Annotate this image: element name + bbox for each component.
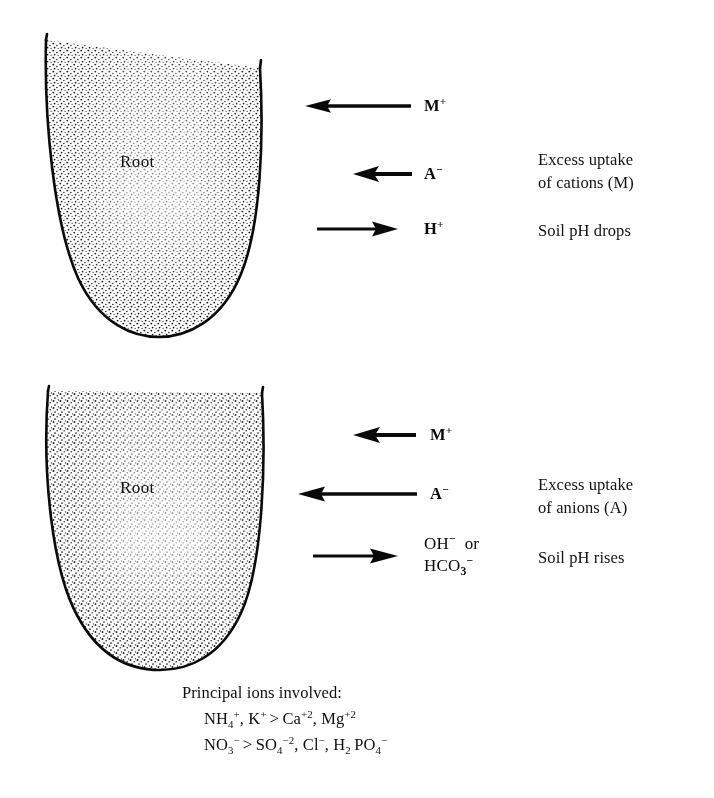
oh-conjunction: or [465,534,480,553]
arrow-a-minus-top [352,164,414,184]
ion-base: H [424,219,437,238]
chemical-formula: SO4−2 [256,735,295,754]
arrow-m-plus-top [303,96,413,116]
ion-label-oh-minus-bottom: OH− or HCO3− [424,533,479,578]
hco3-base: HCO [424,556,461,575]
caption-principal-ions: Principal ions involved: NH4+, K+>Ca+2, … [182,681,387,758]
chemical-formula: Ca+2 [282,709,312,728]
note-excess-uptake-anions: Excess uptake of anions (A) [538,473,633,520]
ion-label-m-plus-bottom: M+ [430,424,452,446]
ion-charge: + [437,218,444,230]
oh-charge: − [449,532,456,545]
ion-charge: − [436,163,443,175]
ion-label-h-plus-top: H+ [424,218,444,240]
ion-base: M [424,96,440,115]
root-illustration-top [38,28,283,343]
root-label-bottom: Root [120,478,155,498]
oh-line-1: OH− or [424,534,479,553]
ion-base: M [430,425,446,444]
chemical-formula: Cl− [303,735,325,754]
caption-title: Principal ions involved: [182,681,387,706]
caption-cation-series: NH4+, K+>Ca+2, Mg+2 [182,706,387,732]
ion-charge: − [442,483,449,495]
note-soil-ph-drops: Soil pH drops [538,219,631,242]
oh-line-2: HCO3− [424,556,473,575]
chemical-formula: Mg+2 [321,709,356,728]
root-label-top: Root [120,152,155,172]
note-excess-uptake-cations: Excess uptake of cations (M) [538,148,634,195]
ion-base: A [430,484,442,503]
ion-charge: + [440,95,447,107]
note-soil-ph-rises: Soil pH rises [538,546,625,569]
arrow-h-plus-top [316,219,400,239]
hco3-charge: − [466,555,473,568]
figure-canvas: Root M+ A− H+ Excess uptake of cations (… [0,0,714,798]
ion-base: A [424,164,436,183]
chemical-formula: NO3− [204,735,240,754]
root-illustration-bottom [38,385,283,670]
caption-anion-series: NO3−>SO4−2, Cl−, H2 PO4− [182,732,387,758]
arrow-oh-minus-bottom [312,546,400,566]
greater-than-symbol: > [267,709,283,728]
greater-than-symbol: > [240,735,256,754]
oh-base: OH [424,534,449,553]
arrow-a-minus-bottom [297,484,419,504]
ion-charge: + [446,424,453,436]
chemical-formula: NH4+ [204,709,240,728]
ion-label-m-plus-top: M+ [424,95,446,117]
chemical-formula: H2 PO4− [333,735,387,754]
arrow-m-plus-bottom [352,425,418,445]
chemical-formula: K+ [248,709,266,728]
ion-label-a-minus-bottom: A− [430,483,449,505]
ion-label-a-minus-top: A− [424,163,443,185]
